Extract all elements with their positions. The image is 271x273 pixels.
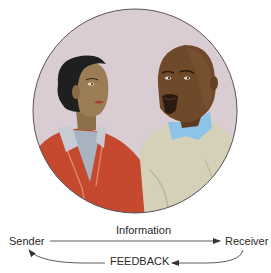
receiver-label: Receiver: [225, 236, 268, 247]
information-label: Information: [116, 225, 171, 236]
conversation-illustration: [0, 0, 271, 220]
feedback-line-left: [29, 250, 105, 263]
sender-label: Sender: [9, 236, 44, 247]
feedback-line-right: [172, 250, 243, 263]
feedback-label: FEEDBACK: [110, 256, 169, 267]
woman-eye: [88, 83, 94, 86]
